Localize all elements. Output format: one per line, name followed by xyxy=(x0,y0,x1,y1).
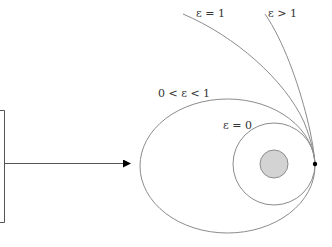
periapsis-dot xyxy=(313,162,317,166)
hyperbolic-trajectory xyxy=(265,14,315,164)
launcher-box xyxy=(0,111,5,223)
planet-icon xyxy=(260,150,288,178)
label-parabola: ε = 1 xyxy=(196,7,225,20)
label-ellipse: 0 < ε < 1 xyxy=(158,87,210,100)
label-circle: ε = 0 xyxy=(223,119,252,132)
label-hyperbola: ε > 1 xyxy=(268,7,297,20)
orbit-eccentricity-diagram: ε = 1 ε > 1 0 < ε < 1 ε = 0 xyxy=(0,0,332,247)
